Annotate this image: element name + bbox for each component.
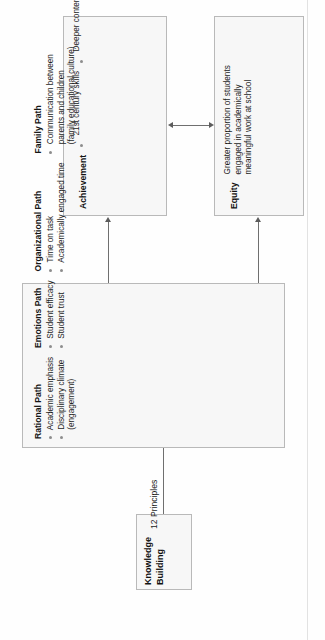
equity-text-layer: Equity Greater proportion of students en… [215, 17, 303, 215]
paths-text-layer: Rational Path Academic emphasis Discipli… [23, 284, 284, 447]
equity-item-0: Greater proportion of students engaged i… [223, 65, 255, 174]
bullet-icon [60, 345, 63, 348]
bullet-icon [49, 269, 52, 272]
path-group-organizational-title: Organizational Path [33, 163, 43, 272]
path-group-organizational-item-1: Academically engaged time [57, 163, 68, 272]
arrow-right-icon [209, 122, 214, 128]
bullet-icon [60, 269, 63, 272]
path-group-rational-item-0: Academic emphasis [46, 357, 57, 439]
bullet-icon [49, 436, 52, 439]
knowledge-building-text-layer: Knowledge Building 12 Principles [137, 515, 191, 589]
knowledge-building-title-line-1: Building [155, 537, 167, 585]
equity-item-0-line-1: engaged in academically [234, 65, 245, 174]
equity-item-0-line-2: meaningful work at school [244, 65, 255, 174]
diagram-canvas: Achievement 21st century skills Deeper c… [0, 0, 325, 640]
path-group-family-title: Family Path [33, 46, 43, 153]
knowledge-building-subtitle-col: 12 Principles [143, 480, 161, 529]
knowledge-building-title: Knowledge Building [143, 537, 166, 585]
path-group-rational-item-1: Disciplinary climate (engagement) [57, 357, 78, 439]
arrow-up-icon [255, 217, 261, 222]
node-paths: Rational Path Academic emphasis Discipli… [22, 283, 285, 448]
node-equity: Equity Greater proportion of students en… [214, 16, 304, 216]
bullet-icon [60, 436, 63, 439]
bullet-icon [80, 144, 83, 147]
path-group-emotions: Emotions Path Student efficacy Student t… [33, 281, 67, 348]
path-group-rational: Rational Path Academic emphasis Discipli… [33, 357, 78, 439]
bullet-icon [49, 151, 52, 154]
path-group-family-item-0: Communication between parents and childr… [46, 46, 78, 153]
knowledge-building-subtitle: 12 Principles [149, 480, 159, 529]
node-achievement: Achievement 21st century skills Deeper c… [63, 16, 167, 216]
page-edge-rule [307, 0, 308, 640]
path-group-family: Family Path Communication between parent… [33, 46, 78, 153]
connector-achievement-equity [172, 125, 210, 126]
path-group-emotions-item-1: Student trust [57, 281, 68, 348]
achievement-item-1-line-0: Deeper content knowledge [72, 0, 83, 51]
achievement-heading: Achievement [78, 155, 88, 209]
equity-item-0-line-0: Greater proportion of students [223, 65, 234, 174]
connector-knowledge-paths-line [163, 448, 164, 514]
achievement-heading-col: Achievement [72, 155, 90, 209]
knowledge-building-title-line-0: Knowledge [143, 537, 155, 585]
path-group-rational-title: Rational Path [33, 357, 43, 439]
bullet-icon [80, 60, 83, 63]
bullet-icon [49, 345, 52, 348]
achievement-text-layer: Achievement 21st century skills Deeper c… [64, 17, 166, 215]
connector-paths-achievement-line [108, 222, 109, 283]
equity-heading-col: Equity [223, 182, 241, 209]
arrow-left-icon [168, 122, 173, 128]
equity-heading: Equity [229, 182, 239, 209]
path-group-organizational-item-0: Time on task [46, 163, 57, 272]
arrow-up-icon [105, 217, 111, 222]
path-group-emotions-item-0: Student efficacy [46, 281, 57, 348]
connector-paths-equity-line [258, 222, 259, 283]
path-group-organizational: Organizational Path Time on task Academi… [33, 163, 67, 272]
path-group-emotions-title: Emotions Path [33, 281, 43, 348]
node-knowledge-building: Knowledge Building 12 Principles [136, 514, 192, 590]
